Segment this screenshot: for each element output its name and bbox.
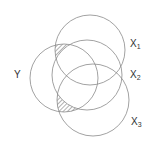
- label-x3: X3: [131, 117, 142, 128]
- label-x2: X2: [130, 70, 141, 81]
- venn-diagram: [0, 0, 151, 141]
- label-x1: X1: [130, 39, 141, 50]
- label-y: Y: [14, 70, 21, 80]
